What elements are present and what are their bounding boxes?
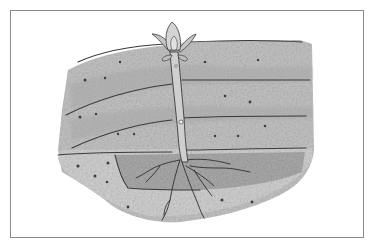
seedling-soil-illustration [0, 0, 377, 247]
